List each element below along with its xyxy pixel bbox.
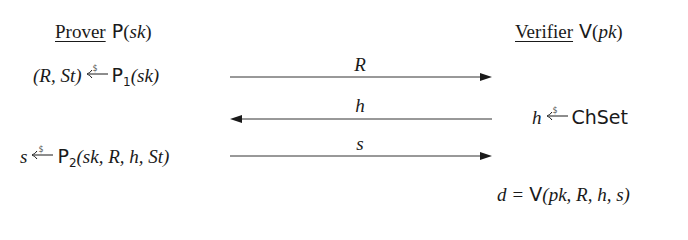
verify-algo: V (529, 183, 542, 205)
verifier-algo-name: V (579, 20, 592, 42)
verifier-public-key: pk (598, 21, 616, 42)
verifier-header: Verifier V(pk) (515, 20, 623, 43)
commit-args: (sk) (131, 65, 159, 86)
verifier-decision-step: d = V(pk, R, h, s) (497, 183, 630, 206)
left-arrow-icon (228, 113, 494, 125)
challenge-output: h (532, 107, 542, 128)
random-sample-arrow-icon: $ (546, 109, 568, 123)
response-algo: P (57, 145, 68, 167)
commit-algo: P (112, 64, 123, 86)
challenge-set: ChSet (572, 106, 629, 128)
prover-commit-step: (R, St)$P1(sk) (33, 64, 159, 93)
prover-header: Prover P(sk) (55, 20, 152, 43)
verifier-role-label: Verifier (515, 21, 573, 42)
right-arrow-icon (228, 150, 494, 162)
right-arrow-icon (228, 71, 494, 83)
prover-response-step: s$P2(sk, R, h, St) (20, 145, 169, 174)
response-output: s (20, 146, 27, 167)
prover-algo-name: P (112, 20, 123, 42)
verify-args: (pk, R, h, s) (542, 184, 630, 205)
prover-role-label: Prover (55, 21, 106, 42)
random-sample-arrow-icon: $ (31, 148, 53, 162)
random-sample-arrow-icon: $ (86, 67, 108, 81)
response-args: (sk, R, h, St) (77, 146, 170, 167)
verifier-challenge-step: h$ChSet (532, 106, 628, 129)
commit-output: (R, St) (33, 65, 82, 86)
prover-secret-key: sk (130, 21, 146, 42)
decision-output: d (497, 184, 507, 205)
